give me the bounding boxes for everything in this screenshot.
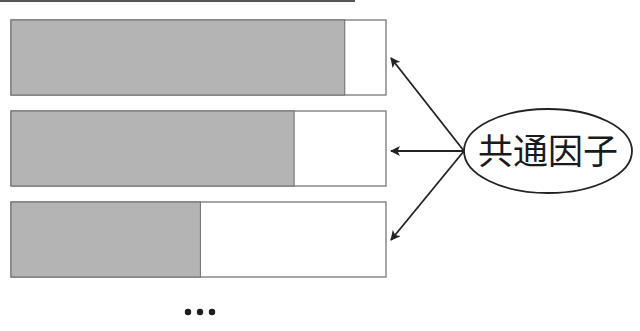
variance-bar	[11, 111, 386, 186]
common-variance-segment	[11, 111, 294, 186]
variance-bars	[11, 20, 386, 277]
variance-bar	[11, 20, 386, 95]
common-factor-label: 共通因子	[478, 132, 618, 172]
factor-arrows	[391, 58, 464, 240]
variance-bar	[11, 202, 386, 277]
ellipsis-dots	[185, 309, 215, 315]
ellipsis-dot	[209, 309, 215, 315]
ellipsis-dot	[185, 309, 191, 315]
factor-arrow	[391, 58, 464, 151]
ellipsis-dot	[197, 309, 203, 315]
common-variance-segment	[11, 202, 200, 277]
factor-arrow	[391, 151, 464, 240]
common-variance-segment	[11, 20, 345, 95]
common-factor-diagram: 共通因子	[0, 0, 640, 331]
